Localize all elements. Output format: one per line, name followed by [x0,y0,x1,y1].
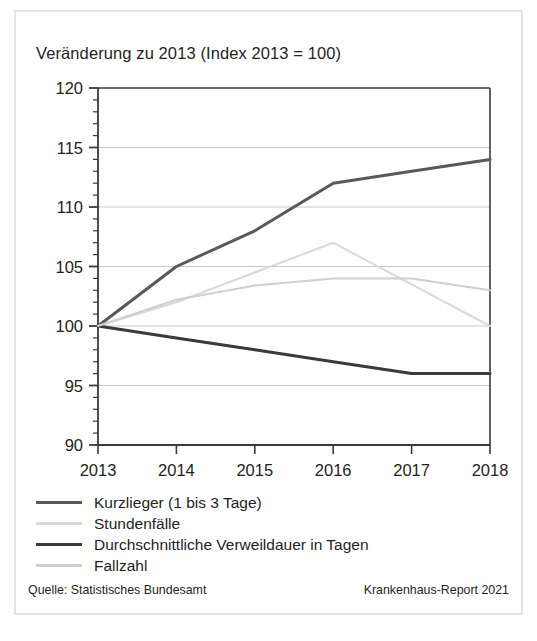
legend-line-swatch-icon [36,564,82,566]
legend-line-swatch-icon [36,501,82,504]
legend-item: Fallzahl [36,555,496,576]
series-line [98,326,490,374]
y-tick-label: 90 [65,436,83,454]
footer-source: Quelle: Statistisches Bundesamt [28,583,206,597]
y-tick-label: 100 [55,317,83,335]
x-axis-tick-labels: 201320142015201620172018 [80,461,509,479]
legend-item-label: Stundenfälle [94,515,180,533]
footer-report: Krankenhaus-Report 2021 [364,583,509,597]
chart-legend: Kurzlieger (1 bis 3 Tage) Stundenfälle D… [36,492,496,576]
grid-lines [98,148,490,386]
legend-swatch-cell [36,564,94,566]
x-tick-label: 2016 [315,461,352,479]
legend-line-swatch-icon [36,522,82,524]
x-tick-label: 2017 [393,461,430,479]
chart-figure: Veränderung zu 2013 (Index 2013 = 100) 9… [0,0,537,641]
legend-item: Durchschnittliche Verweildauer in Tagen [36,534,496,555]
legend-item-label: Durchschnittliche Verweildauer in Tagen [94,536,369,554]
y-tick-label: 115 [57,139,83,157]
x-tick-label: 2018 [472,461,509,479]
series-line [98,243,490,326]
legend-item: Kurzlieger (1 bis 3 Tage) [36,492,496,513]
y-axis-tick-labels: 9095100105110115120 [55,79,83,454]
y-tick-label: 110 [57,198,83,216]
legend-item: Stundenfälle [36,513,496,534]
y-tick-label: 120 [55,79,83,97]
legend-swatch-cell [36,522,94,524]
x-tick-label: 2014 [158,461,195,479]
y-tick-label: 95 [65,377,83,395]
legend-swatch-cell [36,543,94,546]
y-tick-label: 105 [55,258,83,276]
legend-swatch-cell [36,501,94,504]
x-tick-label: 2013 [80,461,117,479]
legend-line-swatch-icon [36,543,82,546]
series-line [98,159,490,326]
legend-item-label: Kurzlieger (1 bis 3 Tage) [94,494,262,512]
x-tick-label: 2015 [236,461,273,479]
legend-item-label: Fallzahl [94,557,147,575]
series-line [98,278,490,326]
chart-footer: Quelle: Statistisches Bundesamt Krankenh… [28,583,509,597]
axis-ticks [89,88,490,454]
